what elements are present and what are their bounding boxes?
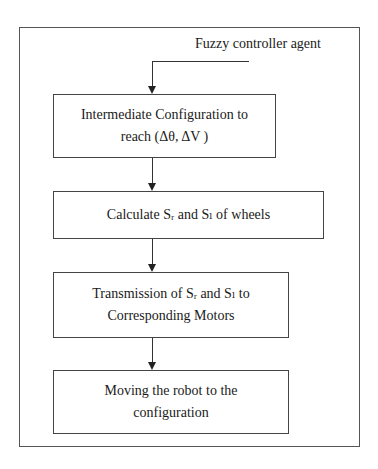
step-3-line-1: Transmission of Sᵣ and Sₗ to (92, 283, 249, 305)
step-intermediate-configuration: Intermediate Configuration to reach (Δθ,… (53, 94, 276, 158)
step-1-line-2: reach (Δθ, ΔV ) (81, 126, 248, 148)
step-4-line-1: Moving the robot to the (105, 380, 238, 402)
step-transmission: Transmission of Sᵣ and Sₗ to Correspondi… (53, 272, 289, 338)
step-3-line-2: Corresponding Motors (92, 305, 249, 327)
input-connector-vertical (152, 61, 153, 86)
arrow-down-icon (148, 86, 156, 94)
arrow-down-icon (148, 264, 156, 272)
arrow-down-icon (148, 362, 156, 370)
step-1-line-1: Intermediate Configuration to (81, 104, 248, 126)
connector-3-4 (152, 338, 153, 362)
connector-1-2 (152, 158, 153, 183)
input-label: Fuzzy controller agent (195, 36, 321, 52)
input-connector-horizontal (152, 61, 249, 62)
step-4-line-2: configuration (105, 402, 238, 424)
step-calculate-speeds: Calculate Sᵣ and Sₗ of wheels (53, 191, 324, 239)
arrow-down-icon (148, 183, 156, 191)
connector-2-3 (152, 239, 153, 264)
step-2-text: Calculate Sᵣ and Sₗ of wheels (107, 204, 270, 226)
step-moving-robot: Moving the robot to the configuration (53, 370, 289, 434)
